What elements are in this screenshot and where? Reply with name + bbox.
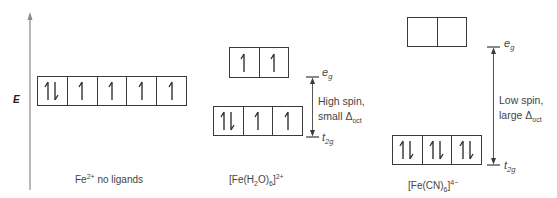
hexacyano-splitting-text: Low spin, large Δoct — [499, 93, 543, 123]
hexacyano-splitting-bracket — [0, 0, 557, 198]
hexacyano-t2g-label: t2g — [504, 159, 515, 174]
hexacyano-eg-label: eg — [504, 37, 514, 52]
hexacyano-caption: [Fe(CN)6]4− — [408, 180, 458, 192]
